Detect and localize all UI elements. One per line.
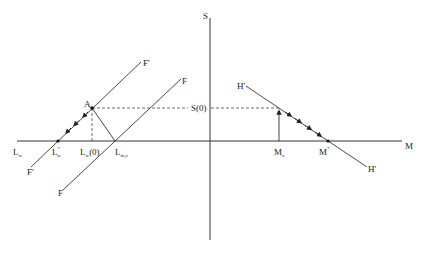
axis-label-s: S <box>203 11 208 21</box>
diagram-canvas: S M Lw F' F' F F A S(0) L*w Lw(0) Lm,c M… <box>0 0 424 257</box>
label-f-prime-top: F' <box>143 58 150 68</box>
label-m-o: Mo <box>274 147 285 158</box>
label-a: A <box>84 99 91 109</box>
label-l-star-w: L*w <box>52 146 61 158</box>
f-prime-arrow-2 <box>75 121 79 125</box>
point-m-star <box>326 139 329 142</box>
a-to-lmc-line <box>92 108 115 141</box>
axis-label-l-w: Lw <box>13 147 23 158</box>
label-h-prime-bottom: H' <box>368 164 376 174</box>
h-prime-arrow-1 <box>285 112 290 115</box>
h-prime-arrow-2 <box>295 119 300 122</box>
f-prime-arrow-1 <box>84 112 88 116</box>
label-s0: S(0) <box>191 103 207 113</box>
axis-label-m: M <box>405 141 413 151</box>
point-a <box>90 106 94 110</box>
label-l-w-0: Lw(0) <box>80 147 100 158</box>
label-m-star: M* <box>319 146 330 157</box>
label-f-top: F <box>182 76 187 86</box>
f-line <box>63 79 181 190</box>
label-l-mc: Lm,c <box>115 147 129 159</box>
label-f-bottom: F <box>58 188 63 198</box>
h-prime-arrow-3 <box>305 125 310 128</box>
label-h-prime-top: H' <box>237 81 245 91</box>
point-l-star-w <box>56 139 59 142</box>
label-f-prime-bottom: F' <box>27 167 34 177</box>
phase-diagram: S M Lw F' F' F F A S(0) L*w Lw(0) Lm,c M… <box>0 0 424 257</box>
h-prime-arrow-4 <box>315 132 320 135</box>
